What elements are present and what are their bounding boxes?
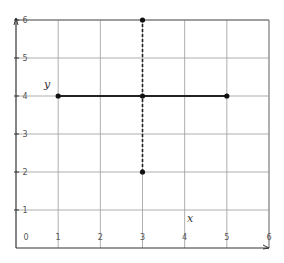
x-tick-label: 5: [224, 233, 229, 242]
x-tick-label: 3: [140, 233, 145, 242]
y-tick-label: 4: [22, 92, 27, 101]
data-point-marker: [224, 93, 229, 98]
data-point-marker: [56, 93, 61, 98]
x-tick-label: 2: [98, 233, 103, 242]
y-tick-label: 1: [22, 206, 27, 215]
x-tick-label: 4: [182, 233, 187, 242]
y-tick-label: 5: [22, 54, 27, 63]
data-point-marker: [140, 169, 145, 174]
x-tick-label: 6: [266, 233, 271, 242]
y-tick-label: 2: [22, 168, 27, 177]
chart: 0123456123456 y x: [0, 0, 284, 263]
x-axis-arrow-icon: [263, 245, 269, 249]
tick-labels: 0123456123456: [22, 16, 271, 242]
data-point-marker: [140, 17, 145, 22]
x-axis-label: x: [187, 212, 194, 225]
x-tick-label: 1: [56, 233, 61, 242]
y-tick-label: 6: [22, 16, 27, 25]
y-tick-label: 3: [22, 130, 27, 139]
x-tick-label: 0: [23, 233, 28, 242]
data-point-marker: [140, 93, 145, 98]
y-axis-label: y: [43, 78, 51, 91]
axes: [14, 18, 269, 249]
series: [56, 17, 230, 174]
